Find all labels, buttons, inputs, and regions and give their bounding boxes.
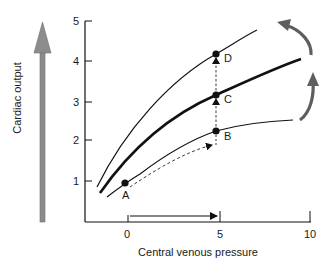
big-up-arrow-icon xyxy=(34,22,51,222)
y-tick-2: 2 xyxy=(73,134,79,146)
cardiac-output-diagram: Cardiac output 5 4 3 2 1 0 5 10 Central … xyxy=(0,0,328,270)
middle-curve xyxy=(100,59,301,193)
x-axis-label: Central venous pressure xyxy=(138,246,258,258)
x-tick-0: 0 xyxy=(124,228,130,240)
x-tick-5: 5 xyxy=(217,228,223,240)
lower-curve xyxy=(107,120,293,197)
y-tick-5: 5 xyxy=(73,15,79,27)
y-tick-3: 3 xyxy=(73,96,79,108)
point-a-label: A xyxy=(122,189,130,201)
dashed-arrow-a-to-b xyxy=(130,145,212,187)
point-c xyxy=(212,91,219,98)
point-c-label: C xyxy=(224,93,232,105)
y-axis-label: Cardiac output xyxy=(11,62,23,134)
x-tick-10: 10 xyxy=(304,228,316,240)
point-a xyxy=(121,179,128,186)
y-tick-4: 4 xyxy=(73,55,79,67)
upper-curve xyxy=(97,30,257,187)
curved-shift-arrow-upper-icon xyxy=(277,19,311,55)
point-d-label: D xyxy=(224,52,232,64)
y-tick-1: 1 xyxy=(73,175,79,187)
point-b-label: B xyxy=(224,130,231,142)
point-d xyxy=(212,50,219,57)
point-b xyxy=(212,127,219,134)
curved-shift-arrow-lower-icon xyxy=(300,72,319,120)
